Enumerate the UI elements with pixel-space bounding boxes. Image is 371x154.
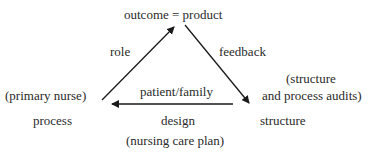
structure-note-line2: and process audits) [262, 89, 362, 102]
nursing-care-plan-note: (nursing care plan) [126, 134, 224, 147]
primary-nurse-note: (primary nurse) [5, 89, 86, 102]
design-label: design [161, 114, 195, 127]
process-node: process [33, 114, 72, 127]
feedback-label: feedback [219, 45, 266, 58]
structure-node: structure [260, 114, 305, 127]
structure-note-line1: (structure [286, 72, 336, 85]
outcome-product-node: outcome = product [124, 8, 222, 21]
patient-family-label: patient/family [140, 85, 213, 98]
role-label: role [110, 45, 130, 58]
